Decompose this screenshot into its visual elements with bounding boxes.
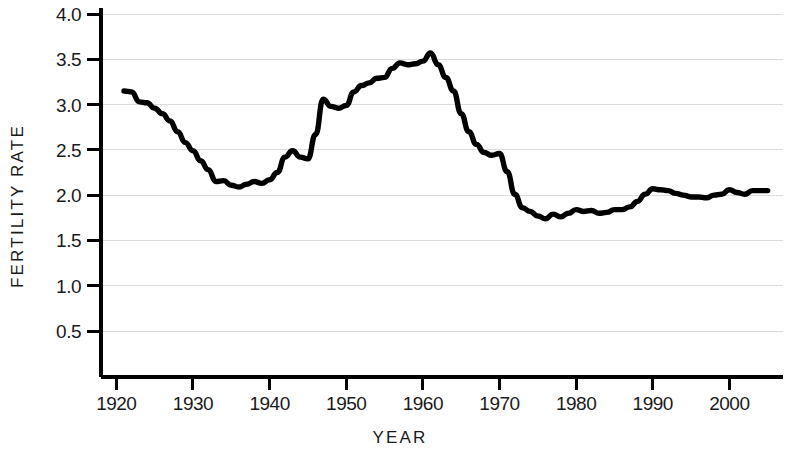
fertility-rate-chart: 0.51.01.52.02.53.03.54.0 192019301940195… [0,0,787,460]
y-axis-tick-label: 3.0 [56,95,81,116]
x-axis-tick-label: 1960 [403,393,443,414]
y-axis-tick-label: 2.0 [56,185,81,206]
y-axis-tick-label: 0.5 [56,321,81,342]
y-axis-title: FERTILITY RATE [8,124,27,288]
x-axis-tick-label: 1940 [249,393,289,414]
y-axis-tick-label: 2.5 [56,140,81,161]
x-axis-tick-label: 1980 [556,393,596,414]
y-axis-tick-label: 1.0 [56,276,81,297]
y-axis-tick-label: 3.5 [56,49,81,70]
y-axis-tick-label: 4.0 [56,4,81,25]
x-axis-tick-label: 1970 [479,393,519,414]
y-axis-tick-label: 1.5 [56,230,81,251]
x-tick-group: 192019301940195019601970198019902000 [96,377,749,414]
x-axis-tick-label: 2000 [709,393,749,414]
x-axis-tick-label: 1930 [173,393,213,414]
x-axis-title: YEAR [372,428,427,447]
x-axis-tick-label: 1920 [96,393,136,414]
x-axis-tick-label: 1990 [633,393,673,414]
chart-svg: 0.51.01.52.02.53.03.54.0 192019301940195… [0,0,787,460]
x-axis-tick-label: 1950 [326,393,366,414]
